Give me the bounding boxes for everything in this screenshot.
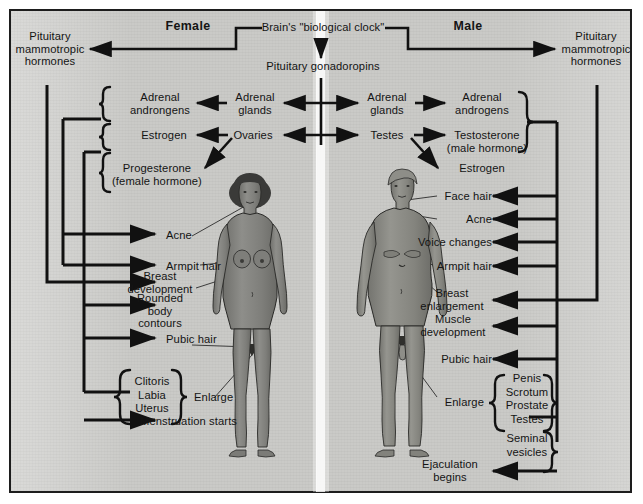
female-adrenal-glands-label: Adrenal glands xyxy=(226,91,284,116)
diagram-linework xyxy=(0,0,643,504)
heading-male: Male xyxy=(420,20,516,33)
pituitary-gonadotropins-label: Pituitary gonadoropins xyxy=(258,60,388,73)
heading-female: Female xyxy=(140,20,236,33)
male-enlarge-group: Penis Scrotum Prostate Testes xyxy=(504,372,550,426)
diagram-canvas: Female Male Brain's "biological clock" P… xyxy=(0,0,643,504)
female-enlarge-label: Enlarge xyxy=(194,391,254,404)
male-effect-ejaculation-begins: Ejaculation begins xyxy=(408,458,492,483)
female-enlarge-group: Clitoris Labia Uterus xyxy=(128,375,176,416)
testes-label: Testes xyxy=(358,129,416,142)
male-effect-acne: Acne xyxy=(430,213,492,226)
testosterone-label: Testosterone (male hormone) xyxy=(441,129,533,154)
male-enlarge-label: Enlarge xyxy=(428,396,484,409)
pituitary-mammotropic-hormones-right: Pituitary mammotropic hormones xyxy=(556,30,636,68)
male-effect-voice-changes: Voice changes xyxy=(410,236,492,249)
male-adrenal-glands-label: Adrenal glands xyxy=(358,91,416,116)
female-effect-rounded-body-contours: Rounded body contours xyxy=(122,292,198,330)
female-effect-pubic-hair: Pubic hair xyxy=(166,333,246,346)
male-adrenal-androgens-label: Adrenal androgens xyxy=(444,91,520,116)
male-effect-face-hair: Face hair xyxy=(430,190,492,203)
male-effect-pubic-hair: Pubic hair xyxy=(418,353,492,366)
male-estrogen-label: Estrogen xyxy=(444,162,520,175)
male-effect-muscle-development: Muscle development xyxy=(414,313,492,338)
male-effect-breast-enlargement: Breast enlargement xyxy=(412,287,492,312)
female-effect-acne: Acne xyxy=(166,229,236,242)
pituitary-mammotropic-hormones-left: Pituitary mammotropic hormones xyxy=(10,30,90,68)
female-estrogen-label: Estrogen xyxy=(130,129,198,142)
brain-biological-clock-label: Brain's "biological clock" xyxy=(258,21,388,34)
male-enlarge-group-seminal: Seminal vesicles xyxy=(504,432,550,459)
progesterone-label: Progesterone (female hormone) xyxy=(108,162,206,187)
male-effect-armpit-hair: Armpit hair xyxy=(412,260,492,273)
female-effect-menstruation-starts: Menstruation starts xyxy=(140,415,264,428)
female-adrenal-androgens-label: Adrenal androngens xyxy=(122,91,198,116)
ovaries-label: Ovaries xyxy=(222,129,284,142)
